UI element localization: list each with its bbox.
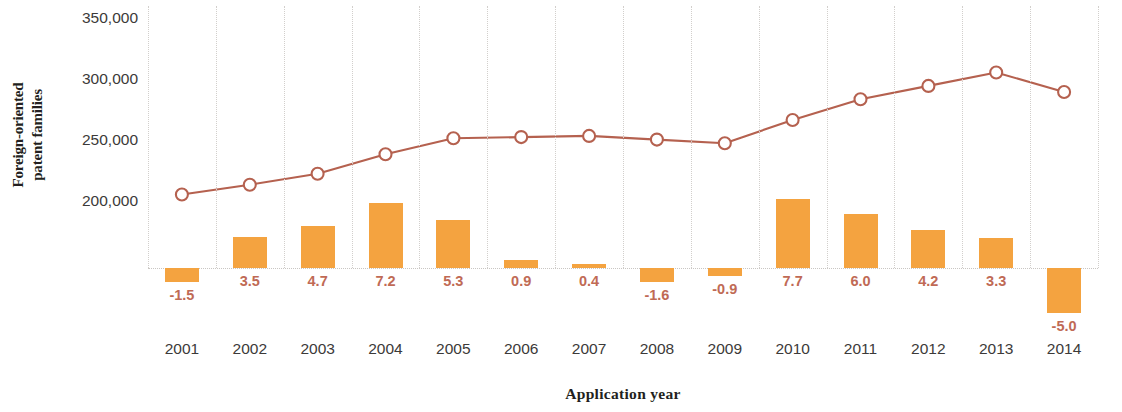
y-axis-tick-200000: 200,000 bbox=[38, 192, 138, 210]
y-axis-tick-250000: 250,000 bbox=[38, 131, 138, 149]
bar-value-label-2011: 6.0 bbox=[826, 273, 896, 289]
line-marker-2004 bbox=[380, 148, 392, 160]
vertical-gridline bbox=[419, 6, 420, 268]
line-marker-2002 bbox=[244, 179, 256, 191]
bar-value-label-2006: 0.9 bbox=[486, 273, 556, 289]
bar-value-label-2007: 0.4 bbox=[554, 273, 624, 289]
bar-value-label-2009: -0.9 bbox=[690, 281, 760, 297]
y-axis-tick-300000: 300,000 bbox=[38, 70, 138, 88]
bar-2012 bbox=[911, 230, 945, 268]
bar-2005 bbox=[436, 220, 470, 268]
line-marker-2012 bbox=[922, 80, 934, 92]
bar-2001 bbox=[165, 268, 199, 282]
line-marker-2005 bbox=[447, 132, 459, 144]
y-axis-tick-350000: 350,000 bbox=[38, 9, 138, 27]
vertical-gridline bbox=[691, 6, 692, 268]
vertical-gridline bbox=[623, 6, 624, 268]
line-marker-2001 bbox=[176, 189, 188, 201]
bar-2007 bbox=[572, 264, 606, 268]
line-marker-2006 bbox=[515, 131, 527, 143]
zero-baseline bbox=[148, 268, 1098, 269]
vertical-gridline bbox=[894, 6, 895, 268]
line-marker-2003 bbox=[312, 168, 324, 180]
y-axis-title-line1: Foreign-oriented bbox=[10, 83, 26, 188]
bar-2008 bbox=[640, 268, 674, 282]
bar-value-label-2013: 3.3 bbox=[961, 273, 1031, 289]
vertical-gridline bbox=[1030, 6, 1031, 268]
vertical-gridline bbox=[352, 6, 353, 268]
x-axis-label-2006: 2006 bbox=[486, 340, 556, 358]
bar-2010 bbox=[776, 199, 810, 268]
bar-value-label-2014: -5.0 bbox=[1029, 318, 1099, 334]
x-axis-label-2002: 2002 bbox=[215, 340, 285, 358]
y-axis-tick-labels: 200,000250,000300,000350,000 bbox=[38, 0, 138, 412]
bar-value-label-2005: 5.3 bbox=[418, 273, 488, 289]
x-axis-label-2008: 2008 bbox=[622, 340, 692, 358]
x-axis-label-2010: 2010 bbox=[758, 340, 828, 358]
line-marker-2008 bbox=[651, 134, 663, 146]
x-axis-label-2013: 2013 bbox=[961, 340, 1031, 358]
bar-2014 bbox=[1047, 268, 1081, 313]
vertical-gridline bbox=[827, 6, 828, 268]
line-marker-2009 bbox=[719, 137, 731, 149]
bar-2006 bbox=[504, 260, 538, 268]
bar-2004 bbox=[369, 203, 403, 268]
bar-value-label-2008: -1.6 bbox=[622, 287, 692, 303]
plot-area: Application year -1.53.54.77.25.30.90.4-… bbox=[148, 0, 1098, 412]
vertical-gridline bbox=[759, 6, 760, 268]
line-marker-2010 bbox=[787, 114, 799, 126]
bar-value-label-2004: 7.2 bbox=[351, 273, 421, 289]
x-axis-label-2001: 2001 bbox=[147, 340, 217, 358]
x-axis-label-2003: 2003 bbox=[283, 340, 353, 358]
vertical-gridline bbox=[962, 6, 963, 268]
line-marker-2014 bbox=[1058, 86, 1070, 98]
line-marker-2011 bbox=[855, 93, 867, 105]
vertical-gridline bbox=[216, 6, 217, 268]
bar-value-label-2001: -1.5 bbox=[147, 287, 217, 303]
x-axis-label-2012: 2012 bbox=[893, 340, 963, 358]
x-axis-label-2011: 2011 bbox=[826, 340, 896, 358]
line-marker-2007 bbox=[583, 130, 595, 142]
vertical-gridline bbox=[555, 6, 556, 268]
x-axis-label-2005: 2005 bbox=[418, 340, 488, 358]
bar-2009 bbox=[708, 268, 742, 276]
bar-value-label-2012: 4.2 bbox=[893, 273, 963, 289]
bar-value-label-2010: 7.7 bbox=[758, 273, 828, 289]
vertical-gridline bbox=[148, 6, 149, 268]
bar-value-label-2003: 4.7 bbox=[283, 273, 353, 289]
bar-2011 bbox=[844, 214, 878, 268]
bar-2002 bbox=[233, 237, 267, 269]
chart-figure: Foreign-oriented patent families 200,000… bbox=[0, 0, 1122, 412]
bar-2003 bbox=[301, 226, 335, 268]
vertical-gridline bbox=[487, 6, 488, 268]
x-axis-label-2009: 2009 bbox=[690, 340, 760, 358]
vertical-gridline bbox=[284, 6, 285, 268]
x-axis-label-2004: 2004 bbox=[351, 340, 421, 358]
x-axis-label-2014: 2014 bbox=[1029, 340, 1099, 358]
line-marker-2013 bbox=[990, 67, 1002, 79]
x-axis-title: Application year bbox=[148, 385, 1098, 403]
bar-value-label-2002: 3.5 bbox=[215, 273, 285, 289]
x-axis-label-2007: 2007 bbox=[554, 340, 624, 358]
vertical-gridline bbox=[1098, 6, 1099, 268]
bar-2013 bbox=[979, 238, 1013, 268]
